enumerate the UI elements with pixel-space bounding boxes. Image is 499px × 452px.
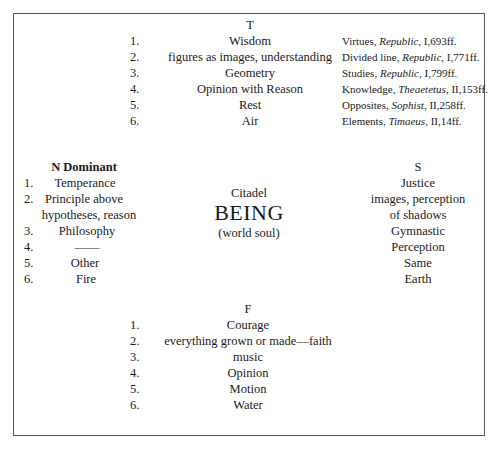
top-item-5-num: 5. xyxy=(130,97,139,113)
top-heading: T xyxy=(246,17,254,33)
left-item-5-num: 5. xyxy=(24,255,33,271)
top-item-3-reference: Studies, Republic, I,799ff. xyxy=(342,65,457,81)
left-item-3-num: 3. xyxy=(24,223,33,239)
bottom-item-3-num: 3. xyxy=(130,349,139,365)
left-item-5-label: Other xyxy=(71,255,99,271)
center-citadel: Citadel xyxy=(231,185,267,201)
bottom-item-5-label: Motion xyxy=(230,381,267,397)
top-item-3-label: Geometry xyxy=(225,65,275,81)
left-item-1-num: 1. xyxy=(24,175,33,191)
top-item-5-label: Rest xyxy=(239,97,261,113)
left-item-2-label: Principle above xyxy=(45,191,123,207)
right-item-5: Same xyxy=(404,255,432,271)
center-being-title: BEING xyxy=(214,201,284,225)
center-world-soul: (world soul) xyxy=(218,225,279,241)
top-item-4-num: 4. xyxy=(130,81,139,97)
top-item-4-reference: Knowledge, Theaetetus, II,153ff. xyxy=(342,81,488,97)
bottom-item-2-label: everything grown or made—faith xyxy=(164,333,332,349)
right-item-4: Perception xyxy=(391,239,444,255)
right-item-2: images, perception xyxy=(371,191,465,207)
top-item-6-reference: Elements, Timaeus, II,14ff. xyxy=(342,113,462,129)
bottom-item-6-label: Water xyxy=(233,397,263,413)
left-item-4-num: 4. xyxy=(24,239,33,255)
bottom-item-4-label: Opinion xyxy=(228,365,269,381)
top-item-1-label: Wisdom xyxy=(229,33,271,49)
top-item-1-reference: Virtues, Republic, I,693ff. xyxy=(342,33,457,49)
bottom-item-6-num: 6. xyxy=(130,397,139,413)
left-item-1-label: Temperance xyxy=(55,175,116,191)
bottom-item-1-label: Courage xyxy=(227,317,269,333)
top-item-2-num: 2. xyxy=(130,49,139,65)
right-item-3: Gymnastic xyxy=(391,223,445,239)
top-item-1-num: 1. xyxy=(130,33,139,49)
left-item-3-label: Philosophy xyxy=(59,223,115,239)
left-item-4-label: —— xyxy=(75,239,100,255)
right-item-1: Justice xyxy=(401,175,435,191)
left-item-2-label-cont: hypotheses, reason xyxy=(42,207,136,223)
bottom-item-1-num: 1. xyxy=(130,317,139,333)
top-item-2-reference: Divided line, Republic, I,771ff. xyxy=(342,49,480,65)
right-item-6: Earth xyxy=(404,271,431,287)
left-item-6-num: 6. xyxy=(24,271,33,287)
top-item-4-label: Opinion with Reason xyxy=(197,81,303,97)
right-item-2-cont: of shadows xyxy=(390,207,447,223)
bottom-item-3-label: music xyxy=(233,349,263,365)
left-heading: N Dominant xyxy=(51,159,117,175)
right-heading: S xyxy=(415,159,422,175)
bottom-heading: F xyxy=(245,301,252,317)
top-item-6-num: 6. xyxy=(130,113,139,129)
bottom-item-2-num: 2. xyxy=(130,333,139,349)
top-item-3-num: 3. xyxy=(130,65,139,81)
top-item-5-reference: Opposites, Sophist, II,258ff. xyxy=(342,97,466,113)
bottom-item-5-num: 5. xyxy=(130,381,139,397)
left-item-2-num: 2. xyxy=(24,191,33,207)
left-item-6-label: Fire xyxy=(76,271,96,287)
top-item-6-label: Air xyxy=(242,113,259,129)
top-item-2-label: figures as images, understanding xyxy=(168,49,332,65)
bottom-item-4-num: 4. xyxy=(130,365,139,381)
